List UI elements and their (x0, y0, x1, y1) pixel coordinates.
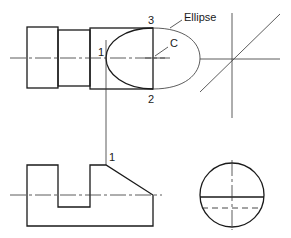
label-ellipse: Ellipse (184, 11, 216, 23)
top-view-left-block (27, 27, 58, 88)
ellipse-leader (170, 20, 182, 28)
label-point-1-front: 1 (109, 151, 115, 163)
top-view: 3 2 1 C Ellipse (10, 11, 216, 105)
label-point-2: 2 (148, 93, 154, 105)
miter-construction (200, 13, 280, 118)
label-point-1-top: 1 (98, 46, 104, 58)
cut-curve (106, 28, 153, 89)
miter-diagonal-line (200, 14, 280, 92)
front-view-outline (27, 165, 153, 226)
side-view (200, 160, 264, 230)
center-c-leader (155, 47, 168, 56)
label-center-c: C (170, 37, 178, 49)
technical-drawing: 3 2 1 C Ellipse 1 (0, 0, 291, 238)
front-view: 1 (10, 151, 162, 226)
top-view-right-block (90, 28, 153, 89)
label-point-3: 3 (148, 14, 154, 26)
